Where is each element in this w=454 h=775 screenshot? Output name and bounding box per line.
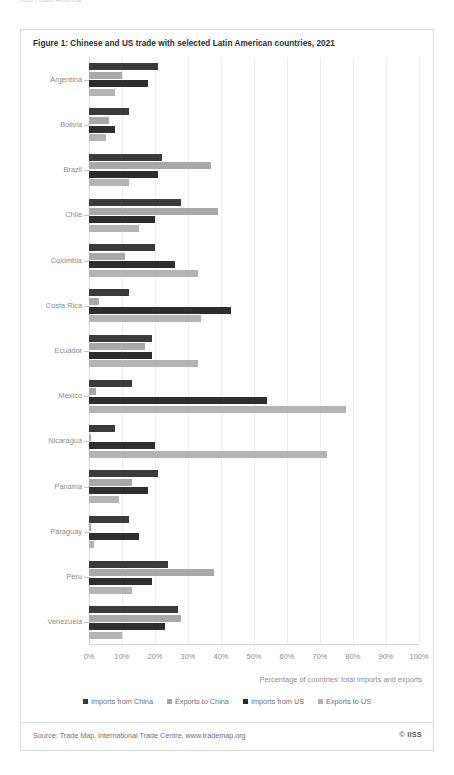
country-group: Brazil <box>89 154 419 187</box>
bar-chile-exports-to-us <box>89 225 139 232</box>
x-tick-label: 90% <box>379 652 394 661</box>
bar-paraguay-imports-from-china <box>89 516 129 523</box>
bar-chile-imports-from-us <box>89 216 155 223</box>
category-label-chile: Chile <box>65 211 82 218</box>
bar-costa-rica-exports-to-china <box>89 298 99 305</box>
x-axis-line <box>89 644 419 645</box>
category-tick <box>84 577 89 578</box>
bar-panama-imports-from-us <box>89 487 148 494</box>
bar-costa-rica-imports-from-us <box>89 307 231 314</box>
country-group: Ecuador <box>89 335 419 368</box>
category-tick <box>84 170 89 171</box>
bar-argentina-imports-from-us <box>89 80 148 87</box>
legend-swatch-icon <box>318 699 323 704</box>
bar-nicaragua-imports-from-us <box>89 442 155 449</box>
category-tick <box>84 487 89 488</box>
category-label-nicaragua: Nicaragua <box>48 437 82 444</box>
chart-plot-area: ArgentinaBoliviaBrazilChileColombiaCosta… <box>32 57 424 667</box>
country-group: Peru <box>89 561 419 594</box>
category-tick <box>84 441 89 442</box>
category-label-paraguay: Paraguay <box>50 528 82 535</box>
country-group: Venezuela <box>89 606 419 639</box>
chart-bars-region: ArgentinaBoliviaBrazilChileColombiaCosta… <box>89 57 419 645</box>
bar-panama-exports-to-china <box>89 479 132 486</box>
figure-title: Figure 1: Chinese and US trade with sele… <box>33 39 335 48</box>
footer-divider <box>21 722 433 723</box>
legend-item: Exports to US <box>318 697 371 706</box>
legend-label: Imports from China <box>91 697 153 706</box>
bar-colombia-imports-from-us <box>89 261 175 268</box>
x-tick-label: 50% <box>247 652 262 661</box>
x-tick-label: 30% <box>181 652 196 661</box>
bar-panama-imports-from-china <box>89 470 158 477</box>
bar-costa-rica-exports-to-us <box>89 315 201 322</box>
bar-argentina-exports-to-us <box>89 89 115 96</box>
legend-swatch-icon <box>83 699 88 704</box>
legend-item: Imports from China <box>83 697 153 706</box>
category-tick <box>84 80 89 81</box>
category-label-venezuela: Venezuela <box>47 618 82 625</box>
category-tick <box>84 622 89 623</box>
legend-item: Exports to China <box>167 697 229 706</box>
bar-panama-exports-to-us <box>89 496 119 503</box>
x-tick-label: 70% <box>313 652 328 661</box>
bar-brazil-imports-from-us <box>89 171 158 178</box>
bar-colombia-imports-from-china <box>89 244 155 251</box>
legend-swatch-icon <box>243 699 248 704</box>
category-label-peru: Peru <box>66 573 82 580</box>
bar-bolivia-imports-from-china <box>89 108 129 115</box>
category-tick <box>84 215 89 216</box>
bar-argentina-exports-to-china <box>89 72 122 79</box>
bar-mexico-exports-to-china <box>89 388 96 395</box>
category-tick <box>84 351 89 352</box>
bar-nicaragua-exports-to-china <box>89 434 91 441</box>
category-label-mexico: Mexico <box>59 392 82 399</box>
category-label-panama: Panama <box>54 483 82 490</box>
x-tick-label: 40% <box>214 652 229 661</box>
bar-bolivia-exports-to-china <box>89 117 109 124</box>
gridline-100 <box>419 57 420 645</box>
x-tick-label: 0% <box>84 652 95 661</box>
category-tick <box>84 532 89 533</box>
x-tick-label: 10% <box>115 652 130 661</box>
bar-paraguay-imports-from-us <box>89 533 139 540</box>
bar-venezuela-imports-from-china <box>89 606 178 613</box>
bar-brazil-imports-from-china <box>89 154 162 161</box>
bar-peru-exports-to-us <box>89 587 132 594</box>
country-group: Nicaragua <box>89 425 419 458</box>
country-group: Paraguay <box>89 516 419 549</box>
bar-nicaragua-exports-to-us <box>89 451 327 458</box>
axis-caption: Percentage of countries' total imports a… <box>260 675 422 684</box>
country-group: Mexico <box>89 380 419 413</box>
category-label-ecuador: Ecuador <box>54 347 82 354</box>
bar-argentina-imports-from-china <box>89 63 158 70</box>
bar-mexico-imports-from-china <box>89 380 132 387</box>
bar-costa-rica-imports-from-china <box>89 289 129 296</box>
category-tick <box>84 125 89 126</box>
category-tick <box>84 306 89 307</box>
bar-ecuador-imports-from-china <box>89 335 152 342</box>
legend-label: Exports to US <box>326 697 371 706</box>
bar-venezuela-exports-to-us <box>89 632 122 639</box>
bar-peru-exports-to-china <box>89 569 214 576</box>
country-group: Costa Rica <box>89 289 419 322</box>
chart-legend: Imports from ChinaExports to ChinaImport… <box>21 697 433 706</box>
country-group: Panama <box>89 470 419 503</box>
x-tick-label: 80% <box>346 652 361 661</box>
bar-ecuador-exports-to-us <box>89 360 198 367</box>
country-group: Colombia <box>89 244 419 277</box>
category-label-costa-rica: Costa Rica <box>46 302 82 309</box>
legend-label: Exports to China <box>175 697 229 706</box>
bar-peru-imports-from-china <box>89 561 168 568</box>
iiss-credit: © IISS <box>399 730 422 739</box>
bar-colombia-exports-to-china <box>89 253 125 260</box>
bar-paraguay-exports-to-us <box>89 541 94 548</box>
category-tick <box>84 396 89 397</box>
country-group: Argentina <box>89 63 419 96</box>
x-tick-label: 60% <box>280 652 295 661</box>
legend-item: Imports from US <box>243 697 304 706</box>
bar-mexico-imports-from-us <box>89 397 267 404</box>
category-label-bolivia: Bolivia <box>60 121 82 128</box>
bar-chile-imports-from-china <box>89 199 181 206</box>
country-group: Bolivia <box>89 108 419 141</box>
